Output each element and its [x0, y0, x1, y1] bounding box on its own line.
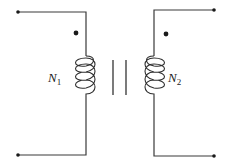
secondary-turns-label: N2 [168, 71, 181, 87]
primary-bottom-wire [18, 96, 86, 155]
secondary-polarity-dot [164, 32, 169, 37]
transformer-schematic [0, 0, 228, 163]
secondary-bottom-wire [154, 96, 214, 156]
primary-top-terminal [16, 10, 20, 14]
primary-turns-label: N1 [48, 71, 61, 87]
secondary-label-subscript: 2 [177, 77, 182, 87]
primary-polarity-dot [74, 31, 79, 36]
primary-coil-icon [76, 56, 96, 96]
core-icon [113, 60, 126, 95]
secondary-bottom-terminal [212, 154, 216, 158]
primary-label-subscript: 1 [57, 77, 62, 87]
transformer-diagram: N1 N2 [0, 0, 228, 163]
secondary-top-wire [154, 10, 214, 56]
primary-label-main: N [48, 70, 57, 85]
secondary-top-terminal [212, 8, 216, 12]
primary-bottom-terminal [16, 153, 20, 157]
secondary-coil-icon [145, 56, 165, 96]
secondary-label-main: N [168, 70, 177, 85]
